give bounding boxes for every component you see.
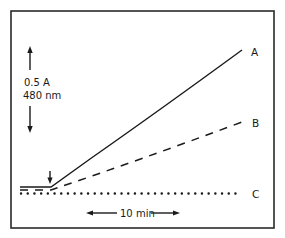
series-b-line — [20, 122, 242, 190]
chart-frame — [11, 11, 274, 228]
arrow-right-icon — [173, 210, 180, 215]
y-scale-value-label: 0.5 A — [24, 77, 50, 88]
start-marker — [47, 171, 52, 184]
arrow-up-icon — [27, 46, 32, 53]
arrow-down-icon — [27, 126, 32, 133]
arrow-down-icon — [47, 178, 52, 185]
series-c-label: C — [252, 188, 259, 200]
x-scale-bar: 10 min — [86, 208, 180, 219]
x-scale-value-label: 10 min — [120, 208, 155, 219]
y-scale-bar: 0.5 A 480 nm — [23, 46, 61, 133]
series-b-label: B — [252, 117, 259, 129]
series-a-line — [20, 50, 242, 187]
y-scale-wavelength-label: 480 nm — [23, 90, 61, 101]
arrow-left-icon — [86, 210, 93, 215]
series-a-label: A — [251, 46, 259, 58]
chart-svg: 0.5 A 480 nm A B C 10 min — [0, 0, 285, 238]
absorbance-time-chart: 0.5 A 480 nm A B C 10 min — [0, 0, 285, 238]
